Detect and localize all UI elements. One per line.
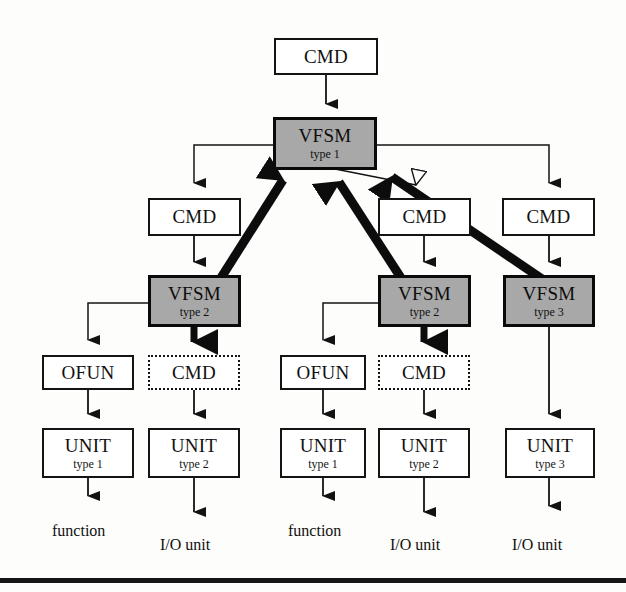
caption-cap_io_m: I/O unit [390,536,440,554]
node-label: VFSM [398,284,451,304]
node-unit5[interactable]: UNITtype 3 [505,428,595,478]
edge-vfsm2-left-to-ofun-left [88,303,148,340]
node-cmd_d_l[interactable]: CMD [148,355,240,390]
node-label: UNIT [401,436,448,456]
node-label: UNIT [171,436,218,456]
caption-cap_function_l: function [52,522,105,540]
node-label: UNIT [300,436,347,456]
node-cmd_d_m[interactable]: CMD [378,355,470,390]
node-ofun_l[interactable]: OFUN [42,355,134,390]
node-unit1[interactable]: UNITtype 1 [42,428,134,478]
node-unit2[interactable]: UNITtype 2 [148,428,240,478]
node-unit4[interactable]: UNITtype 2 [378,428,470,478]
edge-vfsm1-to-cmd-right [377,145,549,183]
node-sublabel: type 2 [179,458,209,471]
node-label: VFSM [299,126,352,146]
node-vfsm1[interactable]: VFSMtype 1 [273,117,377,170]
node-label: OFUN [62,363,115,383]
node-label: CMD [172,363,216,383]
node-label: CMD [172,207,216,227]
node-cmd_m[interactable]: CMD [378,198,471,236]
edge-vfsm1-to-cmd-left [194,145,273,183]
node-sublabel: type 1 [73,458,103,471]
node-label: VFSM [168,284,221,304]
node-cmd_r[interactable]: CMD [502,198,595,236]
node-sublabel: type 1 [310,148,340,161]
node-sublabel: type 2 [410,306,440,319]
footer-divider [0,578,626,583]
node-label: CMD [402,363,446,383]
node-ofun_m[interactable]: OFUN [280,355,366,390]
edge-vfsm2-middle-to-ofun-middle [323,303,378,340]
node-cmd_top[interactable]: CMD [274,38,378,75]
node-label: CMD [304,47,348,67]
caption-cap_io_r: I/O unit [512,536,562,554]
node-sublabel: type 1 [308,458,338,471]
node-sublabel: type 3 [534,306,564,319]
caption-cap_function_m: function [288,522,341,540]
node-vfsm3_r[interactable]: VFSMtype 3 [503,275,595,327]
node-vfsm2_m[interactable]: VFSMtype 2 [378,275,471,327]
node-sublabel: type 3 [535,458,565,471]
node-label: CMD [526,207,570,227]
node-label: UNIT [527,436,574,456]
node-label: VFSM [523,284,576,304]
node-cmd_l[interactable]: CMD [148,198,241,236]
node-sublabel: type 2 [409,458,439,471]
node-sublabel: type 2 [180,306,210,319]
node-label: UNIT [65,436,112,456]
diagram-canvas: CMDVFSMtype 1CMDCMDCMDVFSMtype 2VFSMtype… [0,0,626,592]
caption-cap_io_l: I/O unit [160,536,210,554]
node-unit3[interactable]: UNITtype 1 [280,428,366,478]
node-label: OFUN [297,363,350,383]
node-vfsm2_l[interactable]: VFSMtype 2 [148,275,241,327]
node-label: CMD [402,207,446,227]
